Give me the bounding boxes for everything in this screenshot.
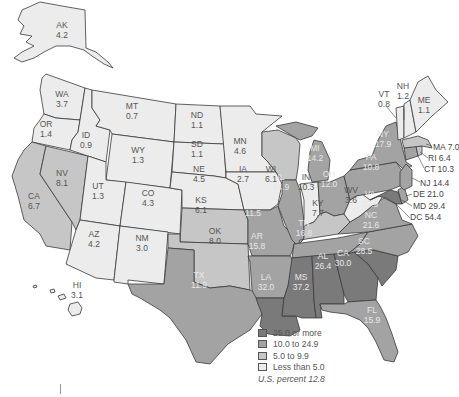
- svg-text:SD1.1: SD1.1: [191, 139, 203, 159]
- callout-NJ: NJ 14.4: [420, 178, 450, 188]
- svg-text:WY1.3: WY1.3: [131, 145, 145, 165]
- us-choropleth-map: AK4.2 WA3.7 OR1.4 CA6.7 NV8.1 ID0.9 MT0.…: [0, 0, 459, 397]
- svg-text:OH12.0: OH12.0: [321, 169, 338, 189]
- state-FL[interactable]: [320, 300, 398, 362]
- svg-text:MN4.6: MN4.6: [233, 136, 246, 156]
- svg-text:WI6.1: WI6.1: [265, 164, 277, 184]
- svg-text:NV8.1: NV8.1: [56, 168, 68, 188]
- svg-text:MS37.2: MS37.2: [293, 272, 310, 292]
- legend-swatch: [258, 340, 267, 348]
- legend-swatch: [258, 352, 267, 360]
- legend-swatch: [258, 363, 267, 371]
- svg-text:MT0.7: MT0.7: [126, 101, 138, 121]
- svg-text:UT1.3: UT1.3: [92, 181, 104, 201]
- svg-text:VT0.8: VT0.8: [378, 89, 390, 109]
- svg-text:MO11.5: MO11.5: [245, 198, 261, 218]
- svg-text:HI3.1: HI3.1: [71, 280, 83, 300]
- callout-DE: DE 21.0: [413, 189, 444, 199]
- map-legend: 25.0 or more 10.0 to 24.9 5.0 to 9.9 Les…: [258, 327, 325, 385]
- svg-text:WV3.6: WV3.6: [344, 185, 358, 205]
- callout-CT: CT 10.3: [424, 164, 454, 174]
- svg-text:CA6.7: CA6.7: [28, 191, 40, 211]
- svg-text:KS6.1: KS6.1: [195, 195, 207, 215]
- svg-text:NM3.0: NM3.0: [135, 233, 148, 253]
- legend-item-25-plus: 25.0 or more: [258, 327, 325, 339]
- state-MA[interactable]: [402, 136, 432, 148]
- svg-text:KY7.7: KY7.7: [312, 198, 324, 218]
- legend-item-10-to-24: 10.0 to 24.9: [258, 339, 325, 351]
- svg-text:OK8.0: OK8.0: [209, 226, 222, 246]
- svg-text:CO4.3: CO4.3: [142, 188, 155, 208]
- legend-swatch: [258, 329, 267, 337]
- divider-mark: [60, 384, 61, 394]
- svg-text:OR1.4: OR1.4: [40, 119, 53, 139]
- us-percent-note: U.S. percent 12.8: [258, 374, 325, 385]
- legend-item-5-to-9: 5.0 to 9.9: [258, 350, 325, 362]
- svg-text:NH1.2: NH1.2: [397, 81, 409, 101]
- callout-MA: MA 7.0: [433, 142, 459, 152]
- callout-DC: DC 54.4: [410, 212, 441, 222]
- callout-RI: RI 6.4: [428, 153, 451, 163]
- svg-text:ND1.1: ND1.1: [191, 110, 203, 130]
- callout-MD: MD 29.4: [413, 201, 445, 211]
- label-AK-abbr: AK: [56, 20, 68, 30]
- svg-text:NE4.5: NE4.5: [193, 164, 205, 184]
- svg-text:AZ4.2: AZ4.2: [88, 229, 100, 249]
- svg-text:WA3.7: WA3.7: [55, 89, 69, 109]
- legend-item-less-than-5: Less than 5.0: [258, 362, 325, 374]
- svg-text:NC21.6: NC21.6: [363, 210, 380, 230]
- svg-text:ME1.1: ME1.1: [418, 95, 431, 115]
- svg-text:AK4.2: AK4.2: [56, 20, 68, 40]
